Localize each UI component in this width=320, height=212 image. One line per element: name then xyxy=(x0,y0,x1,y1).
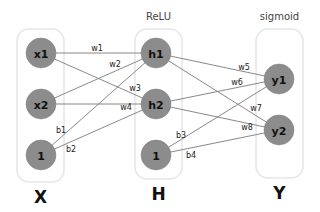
node-label-x1: x1 xyxy=(34,48,49,61)
node-label-h2: h2 xyxy=(148,99,164,112)
weight-label-w4: w4 xyxy=(120,103,132,112)
weight-label-w5: w5 xyxy=(238,63,250,72)
neural-network-diagram: XReLUHsigmoidYw1w2w3w4b1b2w5w6w7w8b3b4x1… xyxy=(0,0,320,212)
weight-label-b4: b4 xyxy=(186,151,196,160)
weight-label-w8: w8 xyxy=(241,123,253,132)
weight-label-w2: w2 xyxy=(109,60,121,69)
layer-label-y: Y xyxy=(272,183,286,203)
node-label-bh: 1 xyxy=(152,150,160,163)
weight-label-w6: w6 xyxy=(231,78,243,87)
weight-label-w7: w7 xyxy=(250,104,262,113)
layer-label-h: H xyxy=(151,184,165,204)
weight-label-b3: b3 xyxy=(176,131,186,140)
activation-label-y: sigmoid xyxy=(260,11,299,22)
weight-label-w1: w1 xyxy=(91,44,103,53)
weight-label-b1: b1 xyxy=(56,126,66,135)
layer-label-x: X xyxy=(34,187,47,207)
weight-label-b2: b2 xyxy=(66,145,76,154)
activation-label-h: ReLU xyxy=(146,11,171,22)
node-label-h1: h1 xyxy=(148,48,164,61)
node-label-bx: 1 xyxy=(37,150,45,163)
node-label-y1: y1 xyxy=(272,74,287,87)
node-label-x2: x2 xyxy=(34,99,49,112)
layer-box-y xyxy=(256,29,303,178)
weight-label-w3: w3 xyxy=(129,84,141,93)
node-label-y2: y2 xyxy=(272,125,287,138)
